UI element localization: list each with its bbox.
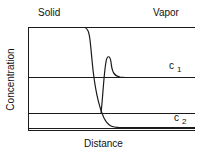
solid-label: Solid: [38, 8, 60, 18]
vapor-label: Vapor: [153, 8, 179, 18]
x-axis-label: Distance: [84, 139, 123, 149]
c2-label: c2: [174, 113, 186, 123]
c1-subscript: 1: [177, 65, 181, 74]
c1-symbol: c: [169, 60, 174, 71]
c2-subscript: 2: [182, 117, 186, 126]
y-axis-label: Concentration: [5, 40, 16, 120]
vapor-profile-curve: [101, 57, 125, 114]
c2-symbol: c: [174, 112, 179, 123]
c1-label: c1: [169, 61, 181, 71]
diagram-canvas: [0, 0, 207, 158]
concentration-diagram: Solid Vapor c1 c2 Concentration Distance: [0, 0, 207, 158]
